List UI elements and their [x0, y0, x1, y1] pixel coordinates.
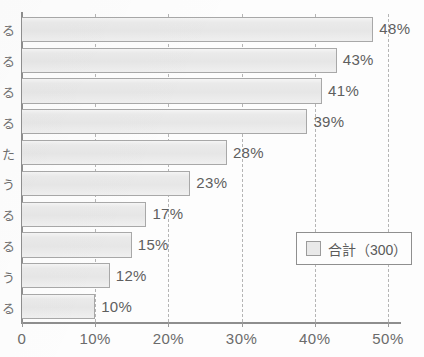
tick-mark-40	[315, 322, 316, 327]
bar	[22, 109, 307, 134]
bar-row: 23%	[22, 171, 400, 196]
y-category-label: る	[2, 112, 18, 131]
bar-row: 12%	[22, 263, 400, 288]
y-category-label: う	[2, 266, 18, 285]
y-category-label: た	[2, 143, 18, 162]
y-category-label: る	[2, 20, 18, 39]
y-category-label: う	[2, 174, 18, 193]
y-category-label: る	[2, 297, 18, 316]
bar-value-label: 23%	[196, 175, 227, 192]
bar	[22, 17, 373, 42]
bar	[22, 232, 132, 257]
x-axis-line	[21, 322, 401, 324]
bar-value-label: 41%	[328, 82, 359, 99]
bar-value-label: 28%	[233, 144, 264, 161]
bar-row: 39%	[22, 109, 400, 134]
bar-row: 41%	[22, 78, 400, 103]
tick-mark-30	[242, 322, 243, 327]
x-tick-label-40: 40%	[299, 330, 331, 347]
x-tick-label-30: 30%	[226, 330, 258, 347]
bar-value-label: 39%	[313, 113, 344, 130]
bar-value-label: 48%	[379, 21, 410, 38]
bar-value-label: 10%	[101, 298, 132, 315]
chart-legend: 合計（300）	[296, 232, 412, 265]
bar	[22, 48, 337, 73]
bar-row: 43%	[22, 48, 400, 73]
bar-value-label: 17%	[152, 205, 183, 222]
y-category-label: る	[2, 51, 18, 70]
x-tick-label-0: 0	[18, 330, 27, 347]
tick-mark-20	[168, 322, 169, 327]
total-series-swatch	[306, 241, 321, 256]
x-tick-label-20: 20%	[153, 330, 185, 347]
bar-value-label: 15%	[138, 236, 169, 253]
bar	[22, 171, 190, 196]
bar	[22, 263, 110, 288]
tick-mark-0	[22, 322, 23, 327]
x-tick-label-10: 10%	[79, 330, 111, 347]
bar-chart: 010%20%30%40%50% 48%43%41%39%28%23%17%15…	[0, 0, 424, 357]
y-category-label: る	[2, 82, 18, 101]
legend-label: 合計（300）	[328, 239, 407, 259]
bar	[22, 78, 322, 103]
bar	[22, 140, 227, 165]
bar-row: 28%	[22, 140, 400, 165]
bar-row: 17%	[22, 202, 400, 227]
bar-value-label: 43%	[343, 51, 374, 68]
tick-mark-50	[388, 322, 389, 327]
plot-area: 48%43%41%39%28%23%17%15%12%10%	[22, 14, 400, 322]
bar-row: 10%	[22, 294, 400, 319]
x-tick-label-50: 50%	[372, 330, 404, 347]
bar-row: 48%	[22, 17, 400, 42]
bar-value-label: 12%	[116, 267, 147, 284]
y-category-label: る	[2, 205, 18, 224]
bar	[22, 294, 95, 319]
y-category-label: る	[2, 236, 18, 255]
tick-mark-10	[95, 322, 96, 327]
bar	[22, 202, 146, 227]
